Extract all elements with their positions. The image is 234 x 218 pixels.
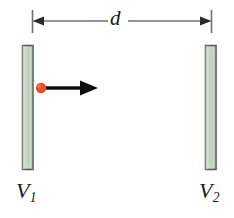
plate-right-label-symbol: V bbox=[199, 178, 212, 203]
parallel-plate-diagram: d V1 V2 bbox=[0, 0, 234, 218]
plate-left bbox=[23, 46, 34, 170]
velocity-arrow-head bbox=[80, 81, 98, 96]
dimension-label-d: d bbox=[110, 8, 121, 29]
plate-left-label-subscript: 1 bbox=[30, 190, 37, 205]
plate-right bbox=[206, 46, 217, 170]
charged-particle-highlight bbox=[38, 85, 42, 89]
charged-particle bbox=[36, 83, 46, 93]
plate-left-label: V1 bbox=[16, 180, 36, 202]
plate-right-label-subscript: 2 bbox=[213, 190, 220, 205]
plate-left-label-symbol: V bbox=[16, 178, 29, 203]
dimension-arrowhead-left bbox=[33, 17, 45, 26]
plate-right-label: V2 bbox=[199, 180, 219, 202]
dimension-arrowhead-right bbox=[200, 17, 212, 26]
